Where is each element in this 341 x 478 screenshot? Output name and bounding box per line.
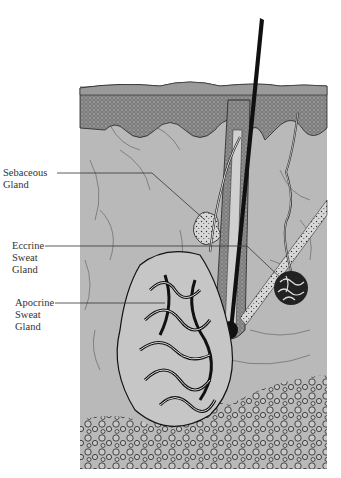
label-eccrine-sweat-gland: Eccrine Sweat Gland	[12, 240, 44, 276]
label-sebaceous-gland: Sebaceous Gland	[3, 167, 47, 191]
label-apocrine-sweat-gland: Apocrine Sweat Gland	[15, 297, 54, 333]
skin-cross-section-figure	[0, 0, 341, 478]
